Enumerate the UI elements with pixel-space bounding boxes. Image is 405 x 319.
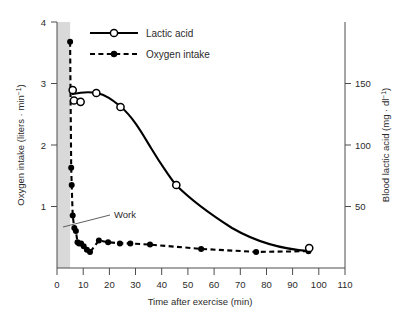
data-point bbox=[77, 98, 84, 105]
work-annotation-label: Work bbox=[114, 209, 136, 220]
data-point bbox=[127, 240, 133, 246]
x-tick-label-10: 10 bbox=[78, 279, 89, 290]
svg-text:Oxygen intake (liters · min−1): Oxygen intake (liters · min−1) bbox=[15, 84, 27, 205]
x-tick-label-30: 30 bbox=[130, 279, 141, 290]
data-point bbox=[105, 239, 111, 245]
bottom-axis-ticks bbox=[57, 268, 345, 275]
work-shaded-region bbox=[57, 22, 70, 268]
left-tick-label-3: 3 bbox=[41, 78, 46, 89]
data-point bbox=[253, 249, 259, 255]
x-tick-label-100: 100 bbox=[311, 279, 327, 290]
data-point bbox=[69, 86, 76, 93]
x-axis-title: Time after exercise (min) bbox=[148, 296, 253, 307]
legend-marker-open-circle bbox=[110, 29, 117, 36]
series-oxygen-intake bbox=[67, 39, 311, 255]
bottom-axis-tick-labels: 0 10 20 30 40 50 60 70 80 90 100 110 bbox=[54, 279, 352, 290]
x-tick-label-70: 70 bbox=[235, 279, 246, 290]
x-tick-label-90: 90 bbox=[287, 279, 298, 290]
series-lactic-acid bbox=[69, 86, 313, 251]
right-tick-label-50: 50 bbox=[355, 201, 366, 212]
data-point bbox=[67, 39, 73, 45]
x-tick-label-40: 40 bbox=[156, 279, 167, 290]
y-axis-title-main: Oxygen intake (liters · min bbox=[15, 95, 26, 205]
y2-axis-title: Blood lactic acid (mg · dl−1) bbox=[380, 88, 392, 202]
chart-plot-area: 1 2 3 4 50 100 150 bbox=[0, 0, 405, 319]
legend-label-oxygen-intake: Oxygen intake bbox=[146, 49, 210, 60]
svg-text:Blood lactic acid (mg · dl−1): Blood lactic acid (mg · dl−1) bbox=[380, 88, 392, 202]
left-tick-label-4: 4 bbox=[41, 17, 46, 28]
chart-legend: Lactic acid Oxygen intake bbox=[90, 28, 210, 60]
data-point bbox=[173, 181, 180, 188]
right-axis-ticks bbox=[345, 84, 351, 207]
x-tick-label-50: 50 bbox=[183, 279, 194, 290]
data-point bbox=[70, 213, 76, 219]
lactic-acid-markers bbox=[69, 86, 313, 251]
data-point bbox=[68, 165, 74, 171]
x-tick-label-0: 0 bbox=[54, 279, 59, 290]
data-point bbox=[73, 228, 79, 234]
y-axis-title: Oxygen intake (liters · min−1) bbox=[15, 84, 27, 205]
x-tick-label-80: 80 bbox=[261, 279, 272, 290]
legend-marker-filled-circle bbox=[111, 51, 117, 57]
data-point bbox=[147, 242, 153, 248]
left-tick-label-1: 1 bbox=[41, 201, 46, 212]
x-tick-label-110: 110 bbox=[337, 279, 352, 290]
lactic-acid-line bbox=[73, 92, 310, 251]
chart-figure: 1 2 3 4 50 100 150 bbox=[0, 0, 405, 319]
legend-label-lactic-acid: Lactic acid bbox=[146, 28, 193, 39]
data-point bbox=[306, 244, 313, 251]
legend-item-lactic-acid: Lactic acid bbox=[90, 28, 193, 39]
y2-axis-title-main: Blood lactic acid (mg · dl bbox=[380, 99, 391, 202]
data-point bbox=[117, 240, 123, 246]
data-point bbox=[87, 249, 93, 255]
oxygen-intake-line bbox=[70, 42, 308, 252]
right-axis-tick-labels: 50 100 150 bbox=[355, 78, 371, 212]
x-tick-label-20: 20 bbox=[104, 279, 115, 290]
left-axis-tick-labels: 1 2 3 4 bbox=[41, 17, 46, 213]
data-point bbox=[93, 89, 100, 96]
x-tick-label-60: 60 bbox=[209, 279, 220, 290]
data-point bbox=[96, 237, 102, 243]
oxygen-intake-markers bbox=[67, 39, 311, 255]
y2-axis-title-tail: ) bbox=[380, 88, 391, 91]
right-tick-label-150: 150 bbox=[355, 78, 371, 89]
y-axis-title-tail: ) bbox=[15, 84, 26, 87]
data-point bbox=[69, 182, 75, 188]
legend-item-oxygen-intake: Oxygen intake bbox=[90, 49, 210, 60]
data-point bbox=[198, 246, 204, 252]
left-tick-label-2: 2 bbox=[41, 140, 46, 151]
data-point bbox=[117, 103, 124, 110]
right-tick-label-100: 100 bbox=[355, 140, 371, 151]
left-axis-ticks bbox=[51, 22, 57, 207]
